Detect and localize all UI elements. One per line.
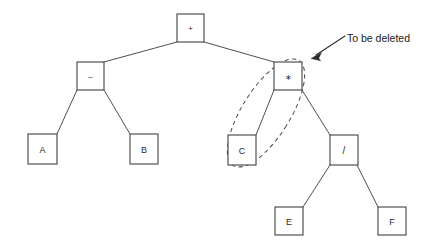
node-group: + – ∗ A B C — [28, 14, 406, 235]
edge-minus-to-a — [57, 90, 77, 134]
tree-canvas: + – ∗ A B C — [0, 0, 433, 247]
node-b[interactable]: B — [130, 134, 158, 164]
node-c[interactable]: C — [228, 135, 256, 165]
node-e[interactable]: E — [275, 207, 303, 235]
node-label-e: E — [286, 217, 292, 227]
annotation-label: To be deleted — [347, 32, 410, 44]
edge-divide-to-f — [357, 165, 378, 207]
edge-times-to-divide — [302, 90, 330, 135]
node-f[interactable]: F — [378, 207, 406, 235]
node-a[interactable]: A — [28, 134, 57, 164]
edge-times-to-c — [256, 90, 274, 135]
node-label-f: F — [389, 217, 395, 227]
expression-tree-diagram: + – ∗ A B C — [0, 0, 433, 247]
edge-divide-to-e — [303, 165, 330, 207]
node-label-a: A — [39, 145, 45, 155]
node-label-minus: – — [88, 72, 93, 81]
node-label-times: ∗ — [285, 73, 292, 82]
annotation-group: To be deleted — [311, 32, 410, 61]
edge-root-to-minus — [104, 42, 177, 62]
edge-root-to-times — [204, 42, 274, 62]
edge-minus-to-b — [104, 90, 130, 134]
node-times[interactable]: ∗ — [274, 62, 302, 90]
edge-group — [57, 42, 378, 207]
annotation-leader-line — [316, 36, 345, 55]
annotation-arrow-icon — [311, 53, 322, 61]
node-root-plus[interactable]: + — [177, 14, 204, 42]
node-divide[interactable]: / — [330, 135, 358, 165]
node-minus[interactable]: – — [77, 62, 104, 90]
node-label-plus: + — [188, 24, 193, 33]
node-label-divide: / — [343, 145, 346, 156]
node-label-c: C — [239, 146, 246, 156]
node-label-b: B — [141, 145, 147, 155]
